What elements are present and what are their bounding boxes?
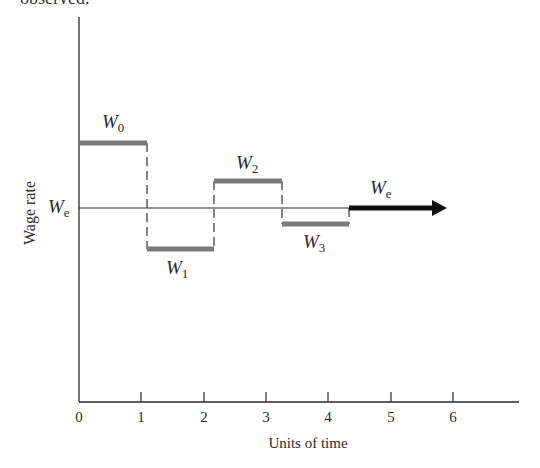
x-ticks: [141, 392, 453, 402]
x-tick-label-5: 5: [387, 410, 395, 425]
chart-area: [0, 0, 540, 468]
x-tick-label-0: 0: [75, 410, 83, 425]
x-tick-label-2: 2: [200, 410, 208, 425]
arrowhead-icon: [432, 200, 447, 216]
label-w0: W0: [102, 112, 124, 134]
y-axis-title: Wage rate: [22, 181, 38, 245]
x-tick-label-1: 1: [137, 410, 145, 425]
x-axis-title: Units of time: [268, 436, 347, 451]
label-we-arrow: We: [370, 178, 392, 200]
x-tick-label-6: 6: [449, 410, 457, 425]
label-we-axis: We: [48, 197, 70, 219]
x-tick-label-4: 4: [324, 410, 332, 425]
label-w3: W3: [303, 232, 325, 254]
label-w2: W2: [236, 153, 258, 175]
x-tick-label-3: 3: [262, 410, 270, 425]
label-w1: W1: [166, 258, 188, 280]
